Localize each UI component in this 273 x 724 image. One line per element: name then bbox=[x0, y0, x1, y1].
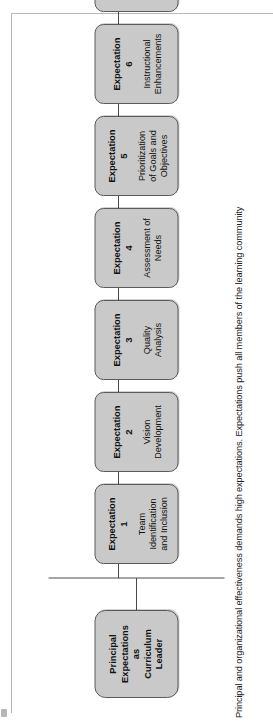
rotated-page-wrapper: Principal Expectations as Curriculum Lea… bbox=[0, 0, 273, 724]
root-line-5: Leader bbox=[153, 639, 165, 670]
root-line-3: as bbox=[130, 649, 142, 659]
expectation-body: Prioritization of Goals and Objectives bbox=[136, 130, 169, 182]
expectation-body-line: Team bbox=[136, 497, 147, 551]
expectation-body-line: Needs bbox=[152, 218, 163, 278]
expectation-body-line: Instructional bbox=[141, 34, 152, 95]
expectation-body-line: Vision bbox=[141, 405, 152, 459]
diagram-canvas: Principal Expectations as Curriculum Lea… bbox=[0, 0, 273, 724]
expectation-body: Team Identification and Inclusion bbox=[136, 497, 169, 551]
expectation-label: Expectation bbox=[110, 221, 121, 274]
expectation-node-2[interactable]: Expectation 2 Vision Development bbox=[94, 392, 178, 472]
expectation-node-3[interactable]: Expectation 3 Quality Analysis bbox=[94, 300, 178, 380]
expectation-body-line: Prioritization bbox=[136, 130, 147, 182]
expectation-number: 2 bbox=[122, 429, 134, 434]
root-line-4: Curriculum bbox=[142, 629, 154, 679]
root-node[interactable]: Principal Expectations as Curriculum Lea… bbox=[94, 610, 178, 698]
expectation-node-7[interactable]: Expectation 7 Conflict Polarization bbox=[94, 0, 178, 12]
expectation-number: 4 bbox=[122, 245, 134, 250]
expectation-label: Expectation bbox=[110, 313, 121, 366]
expectation-number: 5 bbox=[117, 153, 129, 158]
expectation-body-line: Analysis bbox=[152, 323, 163, 357]
expectation-number: 6 bbox=[122, 61, 134, 66]
expectation-node-1[interactable]: Expectation 1 Team Identification and In… bbox=[94, 484, 178, 564]
expectation-body-line: Development bbox=[152, 405, 163, 459]
expectation-node-6[interactable]: Expectation 6 Instructional Enhancements bbox=[94, 24, 178, 104]
expectation-body-line: Objectives bbox=[158, 130, 169, 182]
expectation-number: 1 bbox=[117, 521, 129, 526]
expectation-label: Expectation bbox=[110, 37, 121, 90]
expectation-node-5[interactable]: Expectation 5 Prioritization of Goals an… bbox=[94, 116, 178, 196]
figure-caption: Principal and organizational effectivene… bbox=[233, 6, 244, 718]
root-line-2: Expectations bbox=[119, 625, 131, 683]
expectation-body-line: Enhancements bbox=[152, 34, 163, 95]
expectation-body: Vision Development bbox=[141, 405, 163, 459]
expectation-body-line: Assessment of bbox=[141, 218, 152, 278]
expectation-body: Quality Analysis bbox=[141, 323, 163, 357]
expectation-body-line: Quality bbox=[141, 323, 152, 357]
expectation-label: Expectation bbox=[110, 405, 121, 458]
expectation-body-line: Identification bbox=[147, 497, 158, 551]
expectation-body: Assessment of Needs bbox=[141, 218, 163, 278]
expectation-body-line: and Inclusion bbox=[158, 497, 169, 551]
expectation-label: Expectation bbox=[105, 497, 116, 550]
expectation-node-4[interactable]: Expectation 4 Assessment of Needs bbox=[94, 208, 178, 288]
expectation-label: Expectation bbox=[105, 129, 116, 182]
expectation-body-line: of Goals and bbox=[147, 130, 158, 182]
root-line-1: Principal bbox=[107, 634, 119, 673]
expectation-number: 3 bbox=[122, 337, 134, 342]
expectation-body: Instructional Enhancements bbox=[141, 34, 163, 95]
